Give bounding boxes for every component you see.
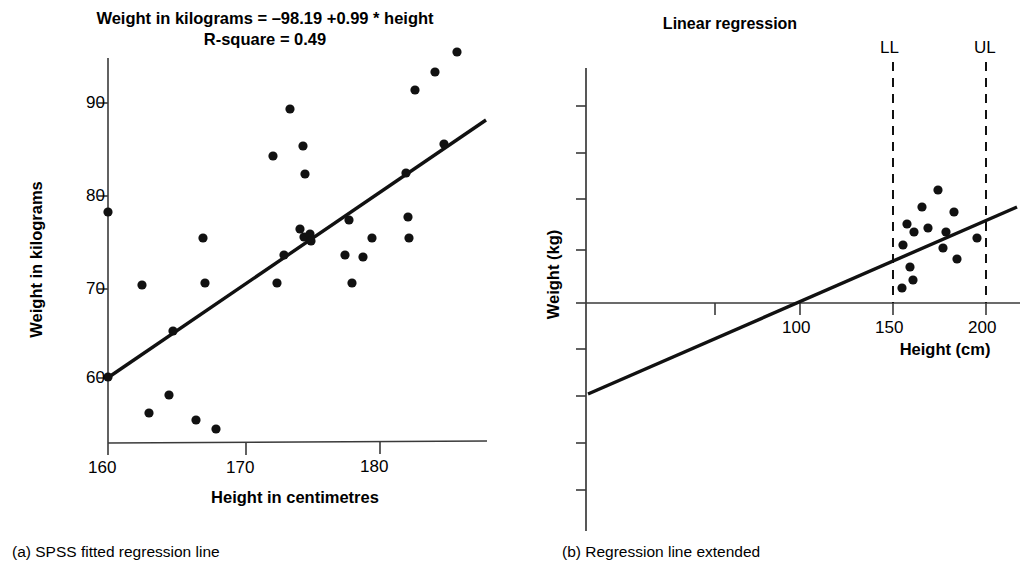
data-point	[941, 227, 950, 236]
upper-limit-label: UL	[974, 38, 996, 58]
regression-line-b	[588, 207, 1017, 394]
y-tick-label-60: 60	[86, 368, 105, 388]
data-point	[905, 262, 914, 271]
data-point	[972, 233, 981, 242]
x-tick-label-180: 180	[360, 457, 388, 477]
data-point	[401, 168, 410, 177]
data-point	[909, 227, 918, 236]
data-point	[211, 424, 220, 433]
data-point	[938, 243, 947, 252]
data-point	[200, 278, 209, 287]
x-tick-label-100: 100	[782, 318, 810, 338]
data-point	[285, 104, 294, 113]
data-point	[452, 47, 461, 56]
data-point	[272, 278, 281, 287]
data-point	[298, 141, 307, 150]
data-point	[897, 283, 906, 292]
x-axis-line-a	[108, 441, 487, 443]
data-point	[404, 233, 413, 242]
y-axis-ticks-a	[98, 103, 108, 378]
data-point	[358, 252, 367, 261]
x-axis-ticks-a	[108, 442, 380, 455]
lower-limit-label: LL	[880, 38, 899, 58]
data-point	[430, 67, 439, 76]
data-point	[367, 233, 376, 242]
figure-caption-b: (b) Regression line extended	[562, 543, 760, 561]
regression-line-a	[106, 120, 486, 379]
data-point	[933, 185, 942, 194]
data-point	[168, 326, 177, 335]
y-tick-label-90: 90	[86, 93, 105, 113]
data-point	[898, 240, 907, 249]
data-point	[917, 202, 926, 211]
y-axis-label-a: Weight in kilograms	[27, 140, 46, 380]
data-point	[952, 254, 961, 263]
x-tick-label-170: 170	[226, 458, 254, 478]
data-point	[410, 85, 419, 94]
data-point	[949, 207, 958, 216]
data-point	[268, 151, 277, 160]
data-point	[923, 223, 932, 232]
data-point	[279, 250, 288, 259]
data-point	[191, 415, 200, 424]
data-point	[295, 224, 304, 233]
data-point	[300, 169, 309, 178]
data-point	[347, 278, 356, 287]
x-axis-label-a: Height in centimetres	[100, 488, 490, 507]
x-tick-label-160: 160	[88, 458, 116, 478]
y-axis-ticks-b	[576, 106, 586, 490]
scatter-plot-b	[520, 0, 1029, 587]
panel-regression-extended: Linear regression	[520, 0, 1029, 587]
data-point	[439, 139, 448, 148]
data-point	[164, 390, 173, 399]
data-point	[340, 250, 349, 259]
x-tick-label-200: 200	[968, 318, 996, 338]
y-axis-label-b: Weight (kg)	[544, 190, 563, 360]
panel-spss-fitted-regression: Weight in kilograms = –98.19 +0.99 * hei…	[0, 0, 520, 587]
data-point	[103, 207, 112, 216]
data-point	[902, 219, 911, 228]
data-point	[403, 212, 412, 221]
x-tick-label-150: 150	[875, 318, 903, 338]
data-point	[306, 236, 315, 245]
x-axis-ticks-b	[715, 303, 986, 315]
data-point	[198, 233, 207, 242]
x-axis-label-b: Height (cm)	[860, 340, 1029, 359]
data-point	[908, 275, 917, 284]
data-point	[344, 215, 353, 224]
y-tick-label-70: 70	[86, 279, 105, 299]
y-tick-label-80: 80	[86, 186, 105, 206]
data-point	[137, 280, 146, 289]
data-point	[144, 408, 153, 417]
figure-caption-a: (a) SPSS fitted regression line	[12, 543, 220, 561]
data-points-a	[103, 47, 461, 433]
